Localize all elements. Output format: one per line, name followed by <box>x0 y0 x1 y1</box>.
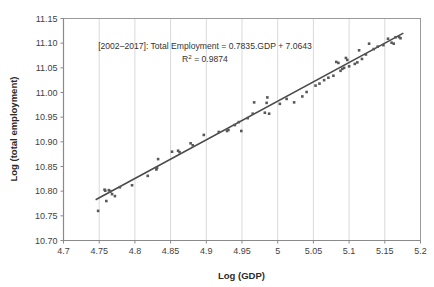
data-point <box>240 130 243 133</box>
data-point <box>327 76 330 79</box>
data-point <box>285 98 288 101</box>
chart-figure: 4.74.754.84.854.94.9555.055.15.155.2 10.… <box>0 0 434 287</box>
data-point <box>365 53 368 56</box>
y-tick-label: 10.90 <box>35 137 58 147</box>
data-point <box>346 59 349 62</box>
data-point <box>356 61 359 64</box>
data-point <box>227 129 230 132</box>
x-tick-label: 4.9 <box>200 246 213 256</box>
data-point <box>372 48 375 51</box>
data-point <box>119 186 122 189</box>
data-point <box>234 124 237 127</box>
data-point <box>301 95 304 98</box>
data-point <box>337 62 340 65</box>
data-point <box>251 112 254 115</box>
y-tick-label: 10.80 <box>35 186 58 196</box>
data-point <box>171 150 174 153</box>
data-point <box>358 49 361 52</box>
data-point <box>157 158 160 161</box>
data-point <box>279 103 282 106</box>
data-point <box>318 82 321 85</box>
data-point <box>399 37 402 40</box>
scatter-plot-svg: 4.74.754.84.854.94.9555.055.15.155.2 10.… <box>0 0 434 287</box>
data-point <box>394 36 397 39</box>
data-point <box>266 96 269 99</box>
y-tick-label: 10.75 <box>35 211 58 221</box>
data-point <box>368 42 371 45</box>
data-point <box>253 101 256 104</box>
data-point <box>354 63 357 66</box>
x-tick-label: 5 <box>275 246 280 256</box>
data-point <box>376 45 379 48</box>
data-point <box>114 195 117 198</box>
y-tick-label: 10.85 <box>35 162 58 172</box>
x-tick-label: 4.8 <box>129 246 142 256</box>
data-point <box>131 184 134 187</box>
x-tick-label: 4.7 <box>57 246 70 256</box>
data-point <box>314 84 317 87</box>
data-point <box>361 58 364 61</box>
y-tick-label: 10.95 <box>35 112 58 122</box>
x-tick-label: 5.2 <box>414 246 427 256</box>
data-point <box>203 134 206 137</box>
data-point <box>392 42 395 45</box>
data-point <box>387 37 390 40</box>
x-tick-label: 4.95 <box>233 246 251 256</box>
y-tick-label: 11.15 <box>36 14 58 24</box>
x-tick-label: 5.1 <box>343 246 356 256</box>
data-point <box>109 190 112 193</box>
data-point <box>293 101 296 104</box>
data-point <box>264 111 267 114</box>
x-tick-label: 5.05 <box>305 246 323 256</box>
y-tick-label: 11.05 <box>36 63 58 73</box>
x-tick-label: 4.75 <box>90 246 108 256</box>
data-point <box>105 200 108 203</box>
data-point <box>382 44 385 47</box>
data-point <box>191 144 194 147</box>
x-axis-title: Log (GDP) <box>218 270 265 281</box>
data-point <box>156 167 159 170</box>
y-tick-label: 11.00 <box>36 88 58 98</box>
data-point <box>343 67 346 70</box>
y-tick-label: 11.10 <box>36 38 58 48</box>
data-point <box>265 102 268 105</box>
data-point <box>268 112 271 115</box>
data-point <box>104 189 107 192</box>
y-axis-title: Log (total employment) <box>8 76 19 181</box>
data-point <box>97 210 100 213</box>
data-point <box>332 74 335 77</box>
data-point <box>237 121 240 124</box>
data-point <box>323 79 326 82</box>
x-tick-label: 5.15 <box>376 246 394 256</box>
annotation-equation: [2002–2017]: Total Employment = 0.7835.G… <box>98 41 312 51</box>
y-tick-label: 10.70 <box>35 236 58 246</box>
data-point <box>146 175 149 178</box>
data-point <box>348 65 351 68</box>
x-tick-label: 4.85 <box>162 246 180 256</box>
data-point <box>305 91 308 94</box>
data-point <box>178 151 181 154</box>
data-point <box>246 117 249 120</box>
data-point <box>218 131 221 134</box>
data-point <box>111 193 114 196</box>
